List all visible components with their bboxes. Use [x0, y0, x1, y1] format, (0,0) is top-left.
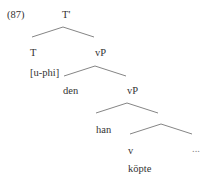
node-t-head: T [30, 47, 36, 59]
node-root: T' [62, 9, 70, 21]
branch-vp1-left [64, 66, 95, 76]
node-spec-han: han [96, 124, 111, 136]
tree-branches [0, 0, 216, 184]
branch-vbar-right [161, 124, 192, 134]
branch-vp2-right [127, 103, 158, 113]
node-t-feature: [u-phi] [30, 67, 59, 79]
branch-vbar-left [130, 124, 161, 134]
node-vp1: vP [95, 47, 106, 59]
node-v-head: v [128, 145, 133, 157]
node-spec-den: den [63, 85, 78, 97]
node-rest: ... [192, 143, 200, 155]
branch-root-left [32, 27, 63, 37]
example-number: (87) [7, 9, 25, 21]
branch-vp2-left [96, 103, 127, 113]
branch-root-right [63, 27, 94, 37]
node-v-word: köpte [128, 163, 151, 175]
node-vp2: vP [127, 85, 138, 97]
branch-vp1-right [95, 66, 126, 76]
